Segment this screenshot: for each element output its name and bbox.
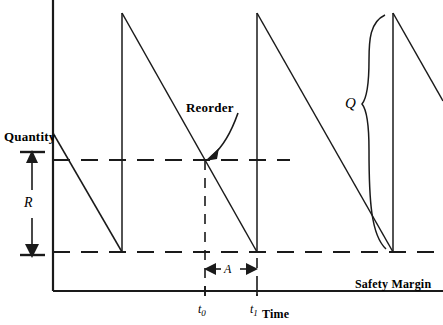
reorder-level-symbol: R — [24, 196, 33, 210]
reorder-callout-arrowhead — [205, 148, 219, 161]
t0-subscript: 0 — [201, 308, 206, 318]
t1-axis-tick-label: t1 — [250, 303, 258, 318]
lead-time-symbol: A — [224, 263, 231, 275]
x-axis-label: Time — [262, 308, 289, 320]
reorder-annotation-label: Reorder — [186, 101, 234, 114]
order-quantity-brace — [362, 15, 386, 249]
safety-margin-label: Safety Margin — [355, 278, 431, 290]
t0-axis-tick-label: t0 — [198, 303, 206, 318]
reorder-callout-arrow — [212, 113, 238, 156]
t1-subscript: 1 — [253, 308, 258, 318]
inventory-level-curve — [53, 13, 443, 252]
order-quantity-symbol: Q — [345, 96, 356, 111]
y-axis-label: Quantity — [4, 130, 55, 143]
figure-canvas: Quantity Reorder Safety Margin Time R A … — [0, 0, 443, 325]
